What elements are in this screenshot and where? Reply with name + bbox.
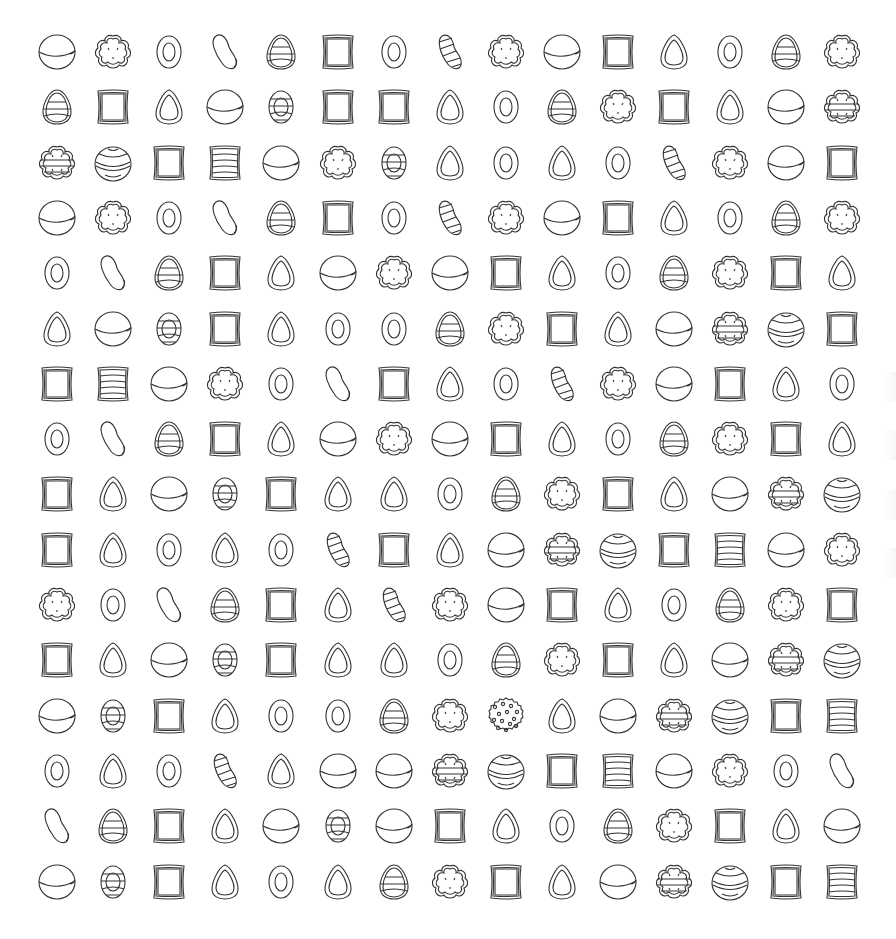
candy-teardrop[interactable] xyxy=(705,82,755,132)
candy-square[interactable] xyxy=(144,138,194,188)
candy-ring[interactable] xyxy=(144,525,194,575)
candy-square[interactable] xyxy=(425,801,475,851)
candy-teardrop[interactable] xyxy=(200,525,250,575)
candy-ring[interactable] xyxy=(144,27,194,77)
candy-square[interactable] xyxy=(369,525,419,575)
candy-bean-striped[interactable] xyxy=(537,359,587,409)
candy-sprinkle-ball[interactable] xyxy=(481,691,531,741)
candy-square[interactable] xyxy=(537,580,587,630)
candy-ball[interactable] xyxy=(144,359,194,409)
candy-square[interactable] xyxy=(481,857,531,907)
candy-flower[interactable] xyxy=(425,580,475,630)
candy-square[interactable] xyxy=(32,469,82,519)
candy-teardrop[interactable] xyxy=(425,82,475,132)
candy-ring[interactable] xyxy=(593,248,643,298)
candy-ring[interactable] xyxy=(817,359,867,409)
candy-teardrop[interactable] xyxy=(256,746,306,796)
candy-flower[interactable] xyxy=(88,193,138,243)
candy-square[interactable] xyxy=(593,635,643,685)
candy-teardrop[interactable] xyxy=(537,691,587,741)
candy-oval-striped[interactable] xyxy=(369,138,419,188)
candy-oval-striped[interactable] xyxy=(200,469,250,519)
candy-bean[interactable] xyxy=(32,801,82,851)
candy-ball[interactable] xyxy=(313,414,363,464)
candy-square[interactable] xyxy=(481,248,531,298)
candy-teardrop[interactable] xyxy=(369,469,419,519)
candy-teardrop[interactable] xyxy=(313,469,363,519)
candy-bean-striped[interactable] xyxy=(200,746,250,796)
candy-egg[interactable] xyxy=(32,82,82,132)
candy-ring[interactable] xyxy=(32,746,82,796)
candy-bean[interactable] xyxy=(200,27,250,77)
candy-square[interactable] xyxy=(256,635,306,685)
candy-egg[interactable] xyxy=(425,304,475,354)
candy-ball-striped[interactable] xyxy=(817,635,867,685)
candy-teardrop[interactable] xyxy=(593,304,643,354)
candy-flower[interactable] xyxy=(425,691,475,741)
candy-ball[interactable] xyxy=(761,138,811,188)
candy-square[interactable] xyxy=(369,359,419,409)
candy-ball[interactable] xyxy=(144,469,194,519)
candy-teardrop[interactable] xyxy=(256,248,306,298)
candy-teardrop[interactable] xyxy=(32,304,82,354)
candy-ring[interactable] xyxy=(425,469,475,519)
candy-teardrop[interactable] xyxy=(649,193,699,243)
candy-egg[interactable] xyxy=(144,414,194,464)
candy-teardrop[interactable] xyxy=(313,857,363,907)
candy-ring[interactable] xyxy=(369,27,419,77)
candy-flower[interactable] xyxy=(88,27,138,77)
candy-ring[interactable] xyxy=(256,359,306,409)
candy-ball[interactable] xyxy=(256,801,306,851)
candy-egg[interactable] xyxy=(481,469,531,519)
candy-ring[interactable] xyxy=(481,138,531,188)
candy-square[interactable] xyxy=(761,857,811,907)
candy-ball[interactable] xyxy=(369,746,419,796)
candy-square-striped[interactable] xyxy=(88,359,138,409)
candy-teardrop[interactable] xyxy=(313,635,363,685)
candy-egg[interactable] xyxy=(144,248,194,298)
candy-ring[interactable] xyxy=(369,304,419,354)
candy-egg[interactable] xyxy=(256,193,306,243)
candy-cookie[interactable] xyxy=(32,138,82,188)
candy-ball[interactable] xyxy=(761,82,811,132)
candy-ring[interactable] xyxy=(256,691,306,741)
candy-cookie[interactable] xyxy=(425,746,475,796)
candy-ball-striped[interactable] xyxy=(817,469,867,519)
candy-egg[interactable] xyxy=(369,691,419,741)
candy-square[interactable] xyxy=(200,248,250,298)
candy-ring[interactable] xyxy=(761,746,811,796)
candy-teardrop[interactable] xyxy=(537,248,587,298)
candy-flower[interactable] xyxy=(200,359,250,409)
candy-teardrop[interactable] xyxy=(144,82,194,132)
candy-flower[interactable] xyxy=(705,746,755,796)
candy-egg[interactable] xyxy=(88,801,138,851)
candy-ball[interactable] xyxy=(313,248,363,298)
candy-teardrop[interactable] xyxy=(649,469,699,519)
candy-teardrop[interactable] xyxy=(88,525,138,575)
candy-flower[interactable] xyxy=(817,525,867,575)
candy-cookie[interactable] xyxy=(649,691,699,741)
candy-square[interactable] xyxy=(481,414,531,464)
candy-square[interactable] xyxy=(32,525,82,575)
candy-egg[interactable] xyxy=(705,580,755,630)
candy-ball[interactable] xyxy=(481,525,531,575)
candy-ring[interactable] xyxy=(144,193,194,243)
candy-square[interactable] xyxy=(649,82,699,132)
candy-teardrop[interactable] xyxy=(481,801,531,851)
candy-teardrop[interactable] xyxy=(200,691,250,741)
candy-bean[interactable] xyxy=(817,746,867,796)
candy-cookie[interactable] xyxy=(705,304,755,354)
candy-teardrop[interactable] xyxy=(88,746,138,796)
candy-ring[interactable] xyxy=(705,27,755,77)
candy-bean[interactable] xyxy=(313,359,363,409)
candy-cookie[interactable] xyxy=(649,857,699,907)
candy-ball[interactable] xyxy=(32,857,82,907)
candy-teardrop[interactable] xyxy=(200,857,250,907)
candy-square[interactable] xyxy=(761,691,811,741)
candy-square[interactable] xyxy=(256,580,306,630)
candy-flower[interactable] xyxy=(32,580,82,630)
candy-square[interactable] xyxy=(32,635,82,685)
candy-ring[interactable] xyxy=(32,248,82,298)
candy-square[interactable] xyxy=(144,857,194,907)
candy-ring[interactable] xyxy=(256,525,306,575)
